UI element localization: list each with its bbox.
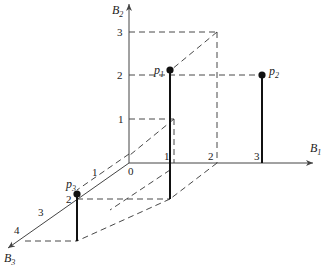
coordinate-diagram: B2 B1 B3 3 2 1 1 2 3 0 1 2 3 4 p1 p2 p3 — [0, 0, 323, 269]
b2-tick-1: 1 — [118, 113, 124, 125]
b1-tick-2: 2 — [208, 150, 214, 162]
b2-tick-2: 2 — [117, 69, 123, 81]
construction-lines — [25, 32, 262, 241]
b3-axis — [8, 163, 129, 248]
b3-tick-3: 3 — [38, 206, 44, 218]
p1-label: p1 — [153, 63, 164, 79]
origin-label: 0 — [128, 165, 134, 177]
p3-label: p3 — [65, 177, 76, 193]
b1-tick-1: 1 — [164, 150, 170, 162]
b1-tick-3: 3 — [254, 150, 260, 162]
b3-tick-1: 1 — [92, 166, 98, 178]
point-p1 — [166, 66, 173, 73]
point-p2 — [258, 71, 265, 78]
point-stems — [77, 70, 262, 241]
b3-tick-2: 2 — [66, 193, 72, 205]
b1-axis-label: B1 — [310, 141, 321, 157]
b2-axis-label: B2 — [112, 3, 123, 19]
axes — [8, 4, 313, 248]
b3-tick-4: 4 — [14, 224, 20, 236]
p2-label: p2 — [268, 64, 279, 80]
b3-axis-label: B3 — [4, 251, 15, 267]
b2-tick-3: 3 — [117, 26, 123, 38]
